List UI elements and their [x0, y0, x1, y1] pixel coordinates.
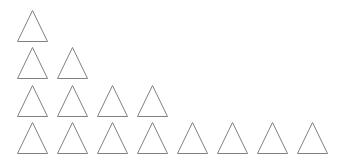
triangle-icon [17, 10, 48, 42]
triangle-row-2 [17, 47, 88, 79]
triangle-pattern-figure [0, 0, 338, 162]
triangle-row-1 [17, 10, 48, 42]
triangle-icon [17, 122, 48, 154]
triangle-icon [297, 122, 328, 154]
triangle-icon [57, 122, 88, 154]
triangle-icon [57, 85, 88, 117]
triangle-icon [57, 47, 88, 79]
triangle-icon [17, 85, 48, 117]
triangle-icon [137, 85, 168, 117]
triangle-icon [177, 122, 208, 154]
triangle-icon [17, 47, 48, 79]
triangle-row-3 [17, 85, 168, 117]
triangle-icon [97, 122, 128, 154]
triangle-icon [97, 85, 128, 117]
triangle-icon [217, 122, 248, 154]
triangle-icon [257, 122, 288, 154]
triangle-icon [137, 122, 168, 154]
triangle-row-4 [17, 122, 328, 154]
